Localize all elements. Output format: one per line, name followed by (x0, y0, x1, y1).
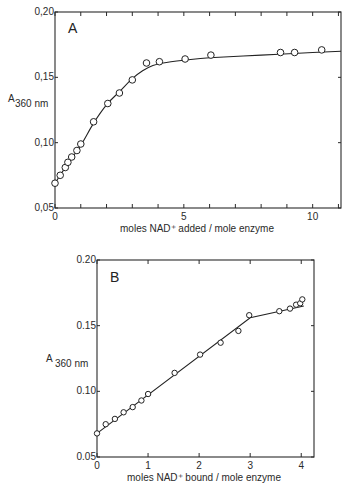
y-axis-label-sub-a: 360 nm (15, 98, 48, 109)
x-tick-label-a: 5 (181, 211, 187, 222)
y-axis-label-b: A (46, 353, 53, 364)
data-point-b (94, 431, 99, 436)
y-axis-label-a: A (8, 93, 15, 104)
data-point-a (318, 47, 325, 54)
data-points-b (94, 297, 305, 436)
data-point-a (90, 119, 97, 126)
data-point-a (68, 154, 75, 161)
data-point-a (105, 100, 112, 107)
data-point-a (291, 49, 298, 56)
figure: 0510 0,050,100,150,20 A A 360 nm moles N… (0, 0, 347, 489)
panel-b: 01234 0.050.100.150.20 B A 360 nm moles … (46, 254, 314, 483)
data-point-a (208, 52, 215, 59)
data-point-a (78, 141, 85, 148)
x-tick-label-b: 1 (145, 460, 151, 471)
data-point-b (112, 416, 117, 421)
y-tick-label-b: 0.20 (77, 254, 97, 265)
x-tick-labels-a: 0510 (52, 211, 318, 222)
x-tick-label-b: 4 (298, 460, 304, 471)
y-tick-label-b: 0.15 (77, 320, 97, 331)
data-point-b (236, 328, 241, 333)
data-point-a (156, 58, 163, 65)
y-tick-label-b: 0.05 (77, 451, 97, 462)
data-point-b (197, 352, 202, 357)
data-point-a (52, 180, 59, 187)
x-ticks-b (97, 260, 301, 457)
data-point-b (172, 370, 177, 375)
panel-label-b: B (110, 269, 119, 285)
fit-curve-a (55, 51, 341, 183)
y-ticks-b (97, 260, 314, 457)
fit-curve-b (97, 306, 304, 433)
y-tick-label-a: 0,05 (35, 202, 55, 213)
data-point-a (129, 77, 136, 84)
data-point-b (145, 391, 150, 396)
x-tick-label-a: 10 (307, 211, 319, 222)
data-point-b (218, 340, 223, 345)
data-points-a (52, 47, 325, 187)
plot-frame-b (97, 260, 314, 457)
data-point-b (300, 297, 305, 302)
data-point-a (116, 90, 123, 97)
y-tick-label-a: 0,20 (35, 6, 55, 17)
x-ticks-a (55, 12, 338, 208)
data-point-a (277, 49, 284, 56)
data-point-a (74, 147, 81, 154)
plot-frame-a (55, 12, 341, 208)
y-ticks-a (55, 12, 341, 208)
data-point-b (139, 398, 144, 403)
data-point-a (143, 60, 150, 67)
data-point-b (103, 422, 108, 427)
y-tick-label-a: 0,10 (35, 137, 55, 148)
x-tick-labels-b: 01234 (94, 460, 304, 471)
y-tick-label-a: 0,15 (35, 71, 55, 82)
y-tick-label-b: 0.10 (77, 385, 97, 396)
x-tick-label-b: 3 (247, 460, 253, 471)
x-axis-label-b: moles NAD⁺ bound / mole enzyme (127, 472, 281, 483)
data-point-b (130, 404, 135, 409)
data-point-b (121, 410, 126, 415)
y-axis-label-sub-b: 360 nm (55, 358, 88, 369)
panel-a: 0510 0,050,100,150,20 A A 360 nm moles N… (8, 6, 341, 234)
data-point-a (57, 172, 64, 179)
data-point-b (287, 306, 292, 311)
data-point-b (247, 313, 252, 318)
data-point-b (277, 309, 282, 314)
data-point-a (182, 56, 189, 63)
x-tick-label-b: 2 (196, 460, 202, 471)
panel-label-a: A (68, 20, 78, 36)
x-axis-label-a: moles NAD⁺ added / mole enzyme (120, 223, 274, 234)
